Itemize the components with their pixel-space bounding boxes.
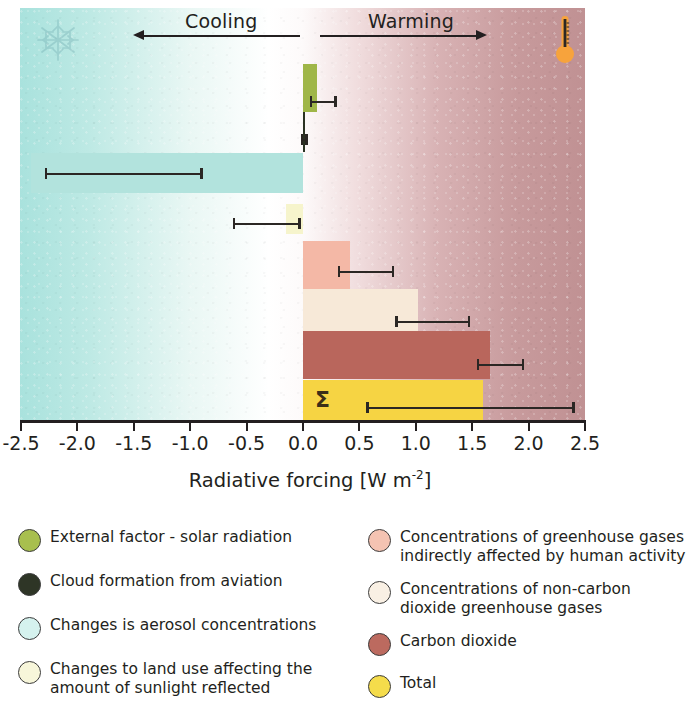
x-tick-5 (302, 422, 304, 431)
warming-arrow (320, 30, 487, 41)
x-axis-title-main: Radiative forcing [W m (189, 469, 412, 492)
legend-label-right-1: Concentrations of non-carbon dioxide gre… (400, 580, 631, 618)
cooling-label: Cooling (185, 10, 258, 32)
x-tick-label-1: -2.0 (47, 432, 107, 454)
error-bar-4 (338, 266, 394, 277)
legend-label-left-2: Changes is aerosol concentrations (50, 616, 316, 635)
x-tick-3 (189, 422, 191, 431)
legend-swatch-right-3 (368, 675, 391, 698)
error-bar-6 (477, 359, 524, 370)
bar-7 (303, 380, 483, 422)
legend-swatch-right-0 (368, 529, 391, 552)
x-tick-8 (471, 422, 473, 431)
thermometer-icon (548, 12, 582, 68)
plot-area: Cooling Warming Σ (20, 8, 585, 420)
legend-swatch-right-1 (368, 581, 391, 604)
legend-label-right-3: Total (400, 674, 436, 693)
x-tick-6 (358, 422, 360, 431)
x-tick-2 (133, 422, 135, 431)
x-tick-10 (584, 422, 586, 431)
legend-label-left-3: Changes to land use affecting the amount… (50, 660, 312, 698)
legend-label-right-0: Concentrations of greenhouse gases indir… (400, 528, 686, 566)
x-tick-label-9: 2.0 (499, 432, 559, 454)
legend-label-left-0: External factor - solar radiation (50, 528, 292, 547)
x-axis-title-exponent: -2 (412, 468, 424, 482)
snowflake-icon (30, 14, 86, 66)
x-tick-9 (528, 422, 530, 431)
error-bar-5 (395, 316, 469, 327)
x-tick-label-10: 2.5 (555, 432, 615, 454)
legend-swatch-left-2 (18, 617, 41, 640)
x-tick-label-3: -1.0 (160, 432, 220, 454)
legend-swatch-left-3 (18, 661, 41, 684)
error-bar-2 (45, 168, 203, 179)
error-bar-0 (310, 96, 337, 107)
legend-label-left-1: Cloud formation from aviation (50, 572, 283, 591)
radiative-forcing-figure: Cooling Warming Σ -2.5-2.0-1.5-1.0-0.50.… (0, 0, 697, 712)
x-tick-0 (20, 422, 22, 431)
cooling-arrow (133, 30, 300, 41)
bar-4 (303, 241, 350, 289)
x-tick-label-5: 0.0 (273, 432, 333, 454)
x-tick-1 (76, 422, 78, 431)
legend-item-right-0[interactable]: Concentrations of greenhouse gases indir… (368, 528, 686, 566)
legend-item-left-2[interactable]: Changes is aerosol concentrations (18, 616, 316, 640)
warming-label: Warming (368, 10, 454, 32)
error-bar-1 (301, 134, 308, 145)
x-tick-label-7: 1.0 (386, 432, 446, 454)
x-tick-label-8: 1.5 (442, 432, 502, 454)
legend-item-left-3[interactable]: Changes to land use affecting the amount… (18, 660, 312, 698)
total-sigma-symbol: Σ (315, 389, 330, 411)
legend-swatch-left-1 (18, 573, 41, 596)
bar-6 (303, 331, 490, 379)
x-tick-4 (246, 422, 248, 431)
x-tick-label-0: -2.5 (0, 432, 51, 454)
x-tick-7 (415, 422, 417, 431)
legend-swatch-right-2 (368, 633, 391, 656)
x-tick-label-6: 0.5 (329, 432, 389, 454)
x-axis-title-end: ] (424, 469, 432, 492)
legend-item-left-0[interactable]: External factor - solar radiation (18, 528, 292, 552)
legend-item-right-1[interactable]: Concentrations of non-carbon dioxide gre… (368, 580, 631, 618)
legend-item-right-3[interactable]: Total (368, 674, 436, 698)
legend-swatch-left-0 (18, 529, 41, 552)
bar-1 (303, 112, 305, 152)
legend-label-right-2: Carbon dioxide (400, 632, 517, 651)
legend-item-left-1[interactable]: Cloud formation from aviation (18, 572, 283, 596)
error-bar-3 (233, 218, 301, 229)
x-tick-label-2: -1.5 (104, 432, 164, 454)
x-axis-title: Radiative forcing [W m-2] (0, 468, 620, 492)
x-tick-label-4: -0.5 (217, 432, 277, 454)
legend: External factor - solar radiationCloud f… (0, 524, 697, 712)
legend-item-right-2[interactable]: Carbon dioxide (368, 632, 517, 656)
error-bar-7 (366, 402, 575, 413)
